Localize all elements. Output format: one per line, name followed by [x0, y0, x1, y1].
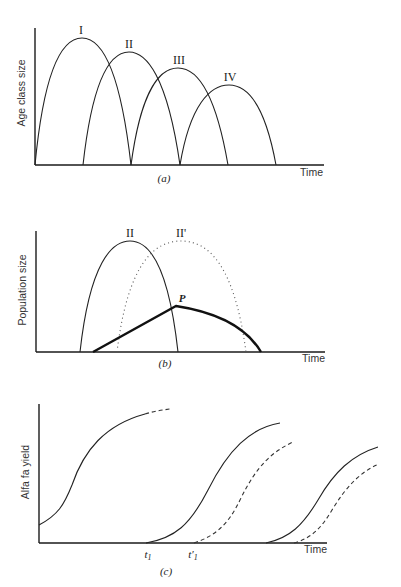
tick-label-t1-prime: t′1 — [188, 548, 197, 562]
panel-c-curve-1 — [39, 414, 145, 525]
figure: I II III IV Time (a) Age class size II I… — [0, 0, 401, 587]
tick-label-t1: t1 — [144, 548, 151, 562]
panel-a-curve-II — [83, 52, 180, 165]
label-curve-P: P — [179, 292, 186, 304]
panel-c-curve-1-dashed — [145, 409, 170, 414]
label-curve-II-prime: II' — [176, 226, 186, 240]
panel-c-curve-3-dashed — [294, 464, 379, 543]
panel-c-curve-2-dashed — [194, 442, 293, 543]
panel-b-caption: (b) — [159, 357, 172, 370]
panel-a: I II III IV Time (a) Age class size — [15, 23, 324, 185]
panel-c-curve-2 — [146, 423, 280, 543]
panel-a-x-label: Time — [300, 166, 323, 178]
label-curve-II: II — [125, 37, 133, 51]
panel-c-y-label: Alfa fa yield — [19, 445, 31, 499]
panel-b-x-label: Time — [302, 352, 325, 364]
panel-b-curve-II — [80, 241, 178, 352]
panel-a-curve-IV — [180, 85, 276, 165]
label-curve-I: I — [79, 23, 83, 37]
label-curve-III: III — [173, 53, 185, 67]
label-curve-IV: IV — [224, 70, 237, 84]
panel-b: II II' P Time (b) Population size — [16, 226, 325, 370]
panel-a-y-label: Age class size — [15, 59, 27, 126]
panel-c-curve-3 — [266, 447, 378, 543]
panel-a-caption: (a) — [158, 172, 171, 185]
panel-a-curve-III — [131, 68, 228, 165]
panel-c-x-label: Time — [304, 543, 327, 555]
panel-c-caption: (c) — [160, 565, 173, 578]
label-curve-II: II — [126, 226, 134, 240]
panel-c: t1 t′1 Time (c) Alfa fa yield — [19, 404, 379, 578]
panel-b-y-label: Population size — [16, 254, 28, 325]
